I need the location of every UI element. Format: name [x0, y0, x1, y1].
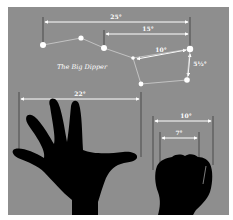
diagram-graphics [0, 0, 233, 220]
open-hand-silhouette [13, 98, 138, 215]
star-icon [187, 46, 193, 52]
bowl-side-label: 5½° [193, 61, 206, 67]
fist-width-label: 10° [180, 113, 191, 119]
star-icon [184, 77, 190, 83]
star-icon [139, 82, 144, 87]
star-icon [40, 42, 46, 48]
fist-silhouette [155, 154, 212, 215]
constellation-title: The Big Dipper [57, 64, 107, 71]
fingers-width-label: 7° [175, 130, 182, 136]
star-icon [131, 56, 135, 60]
hand-span-label: 22° [74, 91, 85, 97]
star-icon [78, 35, 83, 40]
dipper-partial-label: 15° [142, 26, 153, 32]
dipper-span-label: 25° [110, 14, 121, 20]
big-dipper-hand-measurement-diagram: 25° 15° 10° 5½° The Big Dipper 22° 10° 7… [0, 0, 233, 220]
stars [40, 35, 193, 86]
star-icon [101, 45, 107, 51]
bowl-top-label: 10° [155, 47, 166, 53]
constellation-lines [43, 38, 190, 84]
